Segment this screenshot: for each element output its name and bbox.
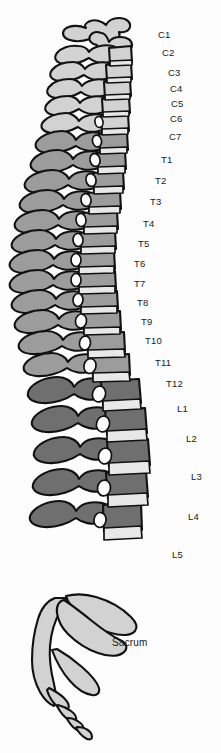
vertebra-label-t6: T6	[134, 259, 146, 269]
vertebra-label-c1: C1	[158, 30, 171, 40]
vertebra-label-t1: T1	[161, 155, 173, 165]
spine-illustration	[0, 0, 221, 753]
vertebra-label-t2: T2	[155, 176, 167, 186]
vertebra-label-t5: T5	[138, 239, 150, 249]
vertebra-label-c5: C5	[171, 99, 184, 109]
vertebra-label-l5: L5	[172, 550, 183, 560]
vertebra-label-t3: T3	[150, 197, 162, 207]
vertebra-label-sacrum: Sacrum	[112, 638, 148, 648]
vertebra-label-t11: T11	[155, 358, 171, 368]
vertebra-label-l3: L3	[191, 472, 202, 482]
spine-diagram: C1C2C3C4C5C6C7T1T2T3T4T5T6T7T8T9T10T11T1…	[0, 0, 221, 753]
vertebra-label-l1: L1	[177, 404, 188, 414]
vertebra-label-c3: C3	[168, 68, 181, 78]
vertebra-label-c6: C6	[170, 114, 183, 124]
vertebra-label-t8: T8	[137, 298, 149, 308]
vertebra-label-l4: L4	[188, 512, 199, 522]
vertebra-label-c2: C2	[162, 48, 175, 58]
vertebra-label-l2: L2	[186, 434, 197, 444]
vertebra-label-t4: T4	[143, 219, 155, 229]
vertebra-label-t7: T7	[134, 279, 146, 289]
vertebra-label-t12: T12	[166, 379, 183, 389]
vertebra-label-t9: T9	[141, 317, 153, 327]
vertebra-label-c4: C4	[170, 84, 183, 94]
vertebra-label-t10: T10	[145, 336, 162, 346]
vertebra-label-c7: C7	[169, 132, 182, 142]
